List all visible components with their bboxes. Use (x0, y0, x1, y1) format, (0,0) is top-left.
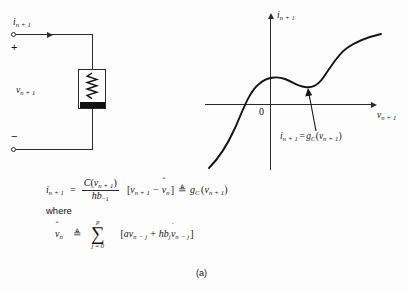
eq2-vdot: ˙v (171, 229, 175, 239)
sum-lower-limit: j = 0 (91, 243, 105, 249)
resistor-nonlinear-bar (80, 102, 105, 108)
figure-caption: (a) (196, 268, 207, 278)
y-axis-arrow-icon (268, 13, 274, 19)
eq2-plus: + (147, 228, 159, 239)
eq1-den-sub: −1 (102, 195, 109, 202)
annot-arg-sub: n + 1 (323, 135, 338, 142)
eq1-t1-sub: n + 1 (135, 189, 150, 196)
current-label: in + 1 (13, 18, 31, 28)
eq1-num-arg-sub: n + 1 (98, 182, 113, 189)
eq2-bracket-close: ] (189, 228, 193, 239)
summation: p∑j = 0 (91, 219, 105, 250)
eq1-vhat: ˆv (162, 185, 166, 195)
polarity-minus: − (11, 131, 17, 142)
eq1-denominator: hb−1 (82, 190, 119, 203)
wire-right-lower (92, 109, 93, 150)
x-axis-label-sub: n + 1 (381, 114, 396, 121)
eq2-delta-eq: ≜ (63, 228, 91, 239)
annot-lhs-sub: n + 1 (283, 135, 298, 142)
eq2-vhat-accent: ˆ (56, 222, 59, 230)
gc-curve (205, 0, 408, 170)
voltage-label-sub: n + 1 (20, 89, 35, 96)
polarity-plus: + (11, 42, 17, 53)
x-axis-arrow-icon (371, 102, 377, 108)
eq1-equals: = (64, 184, 82, 195)
eq1-delta-eq: ≜ (174, 184, 190, 195)
eq2-vhat: ˆv (55, 229, 59, 239)
eq2-v-sub: n − j (133, 233, 147, 240)
voltage-label: vn + 1 (16, 86, 36, 96)
eq1-vhat-accent: ˆ (162, 178, 165, 186)
where-label: where (46, 205, 72, 216)
eq1-num-close: ) (114, 177, 117, 188)
wire-top (16, 34, 93, 35)
figure-panel: in + 1 + − vn + 1 (0, 0, 408, 293)
eq1-rhs-arg-sub: n + 1 (209, 189, 224, 196)
eq1-lhs-sub: n + 1 (49, 189, 64, 196)
eq1-rhs-fn-sub: C (195, 189, 200, 196)
equation-2: ˆvn≜p∑j = 0[avn − j+hbj˙vn − j] (55, 219, 194, 250)
x-axis-label: vn + 1 (377, 111, 397, 121)
characteristic-curve-plot: in + 1 vn + 1 0 in + 1=gC(vn + 1) (205, 0, 408, 170)
terminal-negative (11, 147, 16, 152)
eq2-vdot-accent: ˙ (171, 223, 174, 231)
eq1-minus: − (150, 184, 162, 195)
eq1-bracket-open: [ (119, 184, 130, 195)
y-axis-label-sub: n + 1 (280, 14, 295, 21)
eq2-bracket-open: [ (105, 228, 124, 239)
origin-label: 0 (259, 106, 264, 117)
y-axis (270, 18, 271, 170)
sigma-icon: ∑ (91, 225, 105, 243)
curve-equation-annotation: in + 1=gC(vn + 1) (280, 132, 342, 142)
annotation-arrow-icon (205, 0, 408, 170)
equation-1: in + 1=C(vn + 1)hb−1[vn + 1−ˆvn]≜gC(vn +… (46, 178, 228, 203)
wire-right-upper (92, 34, 93, 69)
eq1-numerator: C(vn + 1) (82, 178, 119, 190)
current-label-sub: n + 1 (16, 21, 31, 28)
nonlinear-resistor-symbol (78, 69, 106, 109)
equations-block: in + 1=C(vn + 1)hb−1[vn + 1−ˆvn]≜gC(vn +… (0, 165, 408, 265)
x-axis (205, 104, 373, 105)
eq1-fraction: C(vn + 1)hb−1 (82, 178, 119, 203)
eq2-vdot-sub: n − j (175, 233, 189, 240)
circuit-diagram: in + 1 + − vn + 1 (0, 0, 205, 170)
current-arrow-icon (47, 32, 53, 38)
eq1-rhs-close: ) (224, 184, 227, 195)
annot-arg-close: ) (338, 131, 341, 141)
wire-bottom (16, 149, 93, 150)
y-axis-label: in + 1 (277, 11, 295, 21)
